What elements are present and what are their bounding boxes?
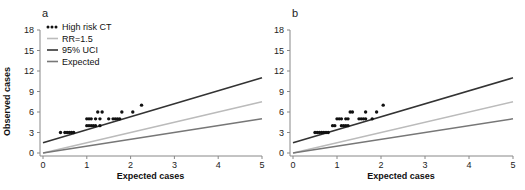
x-tick-label: 2 [128, 160, 133, 170]
x-tick-label: 0 [40, 160, 45, 170]
data-point [382, 103, 385, 106]
panel-label: a [42, 7, 49, 19]
data-point [98, 124, 101, 127]
data-point [346, 124, 349, 127]
data-point [94, 117, 97, 120]
y-tick-label: 12 [274, 66, 284, 76]
y-tick-label: 3 [279, 128, 284, 138]
data-point [364, 117, 367, 120]
data-point [375, 110, 378, 113]
y-tick-label: 3 [29, 128, 34, 138]
data-point [340, 117, 343, 120]
figure: a0123450369121518Expected casesObserved … [0, 0, 525, 190]
x-tick-label: 3 [422, 160, 427, 170]
y-tick-label: 0 [29, 148, 34, 158]
x-tick-label: 3 [172, 160, 177, 170]
legend-dots-icon [55, 26, 58, 29]
x-tick-label: 2 [378, 160, 383, 170]
data-point [100, 110, 103, 113]
legend-dots-icon [51, 26, 54, 29]
series-line-rr-1-5 [43, 102, 262, 153]
x-tick-label: 5 [510, 160, 515, 170]
series-line-rr-1-5 [293, 102, 513, 153]
data-point [59, 131, 62, 134]
data-point [351, 110, 354, 113]
y-tick-label: 12 [24, 66, 34, 76]
legend-label: Expected [62, 57, 100, 67]
data-point [107, 117, 110, 120]
x-tick-label: 1 [334, 160, 339, 170]
y-tick-label: 0 [279, 148, 284, 158]
data-point [98, 117, 101, 120]
data-point [371, 117, 374, 120]
x-tick-label: 0 [290, 160, 295, 170]
data-point [333, 124, 336, 127]
x-axis-title: Expected cases [367, 171, 435, 181]
y-tick-label: 15 [24, 46, 34, 56]
data-point [89, 117, 92, 120]
data-point [118, 117, 121, 120]
panel-a: a0123450369121518Expected casesObserved … [2, 7, 265, 181]
data-point [140, 103, 143, 106]
x-tick-label: 1 [84, 160, 89, 170]
x-tick-label: 4 [216, 160, 221, 170]
y-tick-label: 18 [24, 25, 34, 35]
legend-label: RR=1.5 [62, 34, 93, 44]
x-tick-label: 4 [466, 160, 471, 170]
x-tick-label: 5 [259, 160, 264, 170]
legend-label: High risk CT [62, 22, 112, 32]
x-axis-title: Expected cases [117, 171, 185, 181]
y-tick-label: 18 [274, 25, 284, 35]
y-tick-label: 6 [279, 107, 284, 117]
data-point [364, 110, 367, 113]
y-tick-label: 9 [29, 87, 34, 97]
panel-b: b0123450369121518Expected cases [274, 7, 516, 181]
data-point [94, 124, 97, 127]
data-point [346, 117, 349, 120]
y-tick-label: 6 [29, 107, 34, 117]
data-point [96, 110, 99, 113]
y-tick-label: 15 [274, 46, 284, 56]
series-line-95-uci [43, 78, 262, 143]
y-axis-title: Observed cases [2, 67, 12, 136]
y-tick-label: 9 [279, 87, 284, 97]
series-line-expected [293, 119, 513, 153]
panel-label: b [292, 7, 298, 19]
legend: High risk CTRR=1.595% UCIExpected [47, 22, 113, 67]
data-point [327, 131, 330, 134]
legend-label: 95% UCI [62, 45, 98, 55]
data-point [120, 110, 123, 113]
legend-dots-icon [47, 26, 50, 29]
data-point [72, 131, 75, 134]
series-line-expected [43, 119, 262, 153]
data-point [131, 110, 134, 113]
